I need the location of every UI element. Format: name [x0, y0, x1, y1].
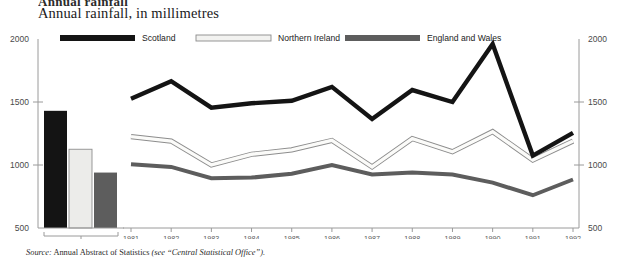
chart-subtitle: Annual rainfall, in millimetres	[38, 5, 219, 22]
bar	[69, 149, 92, 228]
series-line	[131, 132, 573, 167]
source-note: Source: Annual Abstract of Statistics (s…	[26, 248, 265, 257]
source-paren-open: (see “	[152, 248, 172, 257]
x-axis-year-label: 1981	[123, 234, 139, 239]
x-axis-year-label: 1985	[284, 234, 300, 239]
y-axis-label-left: 1500	[10, 97, 29, 107]
x-axis-year-label: 1984	[244, 234, 260, 239]
x-axis-year-label: 1987	[364, 234, 380, 239]
x-axis-year-label: 1989	[444, 234, 460, 239]
y-axis-label-left: 2000	[10, 34, 29, 44]
y-axis-label-right: 500	[588, 223, 602, 233]
x-axis-year-label: 1983	[203, 234, 219, 239]
chart-plot-area: 500500100010001500150020002000ScotlandNo…	[0, 24, 617, 239]
source-paren-text: Central Statistical Office	[172, 248, 256, 257]
legend-label: Northern Ireland	[278, 33, 340, 43]
bar	[94, 173, 117, 228]
y-axis-label-right: 2000	[588, 34, 607, 44]
x-axis-year-label: 1982	[163, 234, 179, 239]
legend-swatch	[196, 35, 271, 41]
y-axis-label-left: 500	[15, 223, 29, 233]
x-axis-year-label: 1990	[485, 234, 501, 239]
source-prefix: Source:	[26, 248, 52, 257]
rainfall-chart-svg: 500500100010001500150020002000ScotlandNo…	[0, 24, 617, 239]
series-line	[131, 164, 573, 195]
x-axis-year-label: 1992	[565, 234, 581, 239]
source-text: Annual Abstract of Statistics	[53, 248, 149, 257]
bar-group-brace	[44, 232, 118, 236]
bar	[44, 111, 67, 228]
legend-swatch	[345, 35, 420, 41]
y-axis-label-right: 1000	[588, 160, 607, 170]
x-axis-year-label: 1986	[324, 234, 340, 239]
legend-label: England and Wales	[427, 33, 501, 43]
x-axis-year-label: 1988	[404, 234, 420, 239]
y-axis-label-right: 1500	[588, 97, 607, 107]
x-axis-year-label: 1991	[525, 234, 541, 239]
y-axis-label-left: 1000	[10, 160, 29, 170]
series-line	[131, 132, 573, 167]
source-paren-close: ”).	[256, 248, 266, 257]
legend-swatch	[60, 35, 135, 41]
legend-label: Scotland	[142, 33, 176, 43]
